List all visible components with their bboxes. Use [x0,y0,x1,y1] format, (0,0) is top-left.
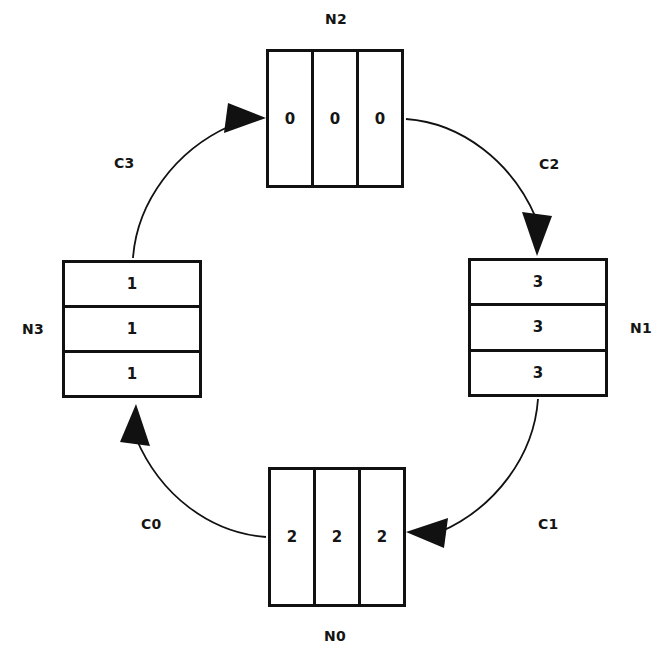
node-n3-label: N3 [22,321,44,337]
node-n3-cell-2: 1 [65,350,199,395]
node-n1[interactable]: 3 3 3 [468,258,608,397]
edge-c1-curve [440,399,538,532]
node-n2-cell-0: 0 [269,52,311,185]
node-n1-label: N1 [630,320,652,336]
node-n2[interactable]: 0 0 0 [266,49,404,188]
edge-c1-arrowhead-icon [406,518,448,548]
edge-c2-curve [406,119,536,218]
node-n1-cell-0: 3 [471,261,605,303]
edge-c0-arrowhead-icon [120,404,150,446]
node-n3[interactable]: 1 1 1 [62,260,202,398]
node-n0-cell-1: 2 [313,470,358,604]
edge-label-c3: C3 [114,155,134,171]
node-n2-cell-2: 0 [356,52,401,185]
node-n0-label: N0 [324,628,346,644]
node-n1-cell-2: 3 [471,349,605,394]
node-n3-cell-0: 1 [65,263,199,305]
node-n0[interactable]: 2 2 2 [268,467,406,607]
edge-label-c2: C2 [539,156,559,172]
diagram-canvas: 2 2 2 N0 3 3 3 N1 0 0 0 N2 1 1 1 N3 C0 C… [0,0,664,655]
node-n2-cell-1: 0 [311,52,356,185]
node-n0-cell-0: 2 [271,470,313,604]
node-n3-cell-1: 1 [65,305,199,350]
edge-label-c1: C1 [538,516,558,532]
edge-c3-arrowhead-icon [224,103,266,133]
edge-c3-curve [133,126,230,258]
node-n2-label: N2 [325,11,347,27]
edge-c2-arrowhead-icon [522,212,552,256]
edge-label-c0: C0 [141,516,161,532]
node-n0-cell-2: 2 [358,470,403,604]
node-n1-cell-1: 3 [471,303,605,348]
